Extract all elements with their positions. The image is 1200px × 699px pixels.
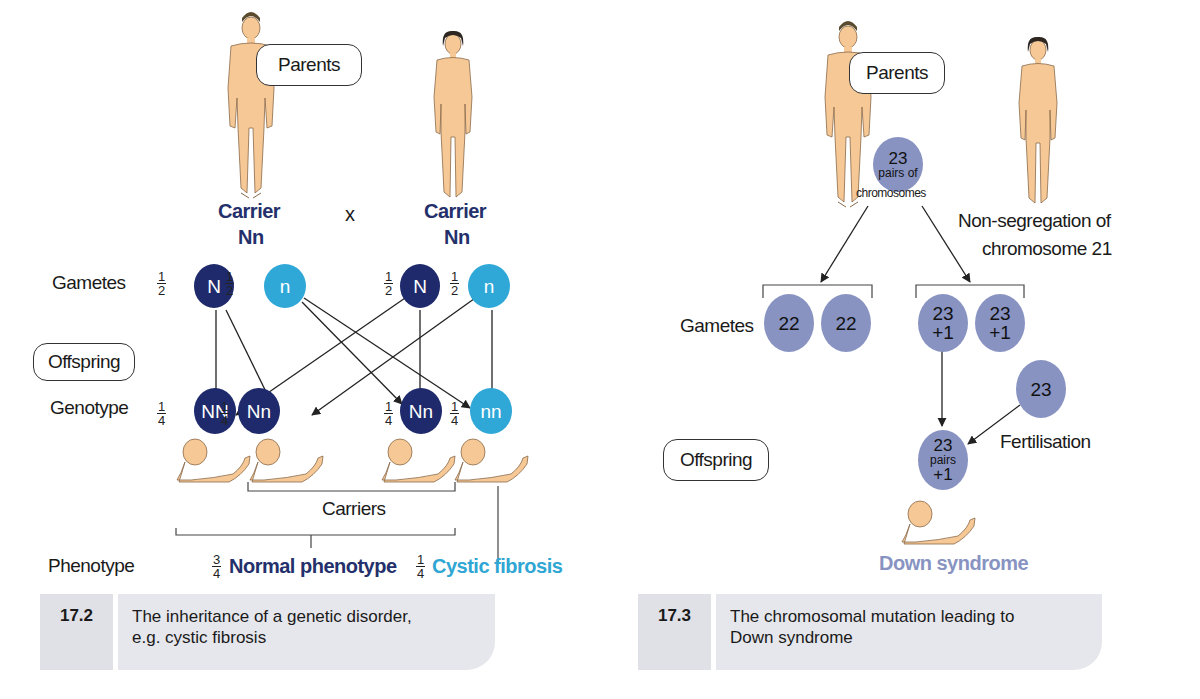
gamete-node-plus-one: 23 +1 (975, 294, 1025, 352)
offspring-text: Offspring (48, 351, 120, 373)
gamete-allele: n (468, 264, 510, 308)
father-status: Carrier (218, 200, 280, 223)
normal-fraction: 34 (212, 553, 221, 580)
gametes-label-right: Gametes (680, 315, 754, 337)
non-segregation-line1: Non-segregation of (958, 210, 1111, 232)
down-syndrome-label: Down syndrome (879, 552, 1028, 575)
gamete-allele: N (400, 264, 440, 308)
affected-fraction: 14 (416, 553, 425, 580)
parents-text: Parents (866, 62, 928, 84)
mother-genotype: Nn (444, 226, 470, 249)
phenotype-label: Phenotype (48, 555, 134, 577)
genotype-node: Nn (400, 388, 442, 434)
parents-label-right: Parents (849, 52, 945, 94)
offspring-label: Offspring (33, 343, 135, 381)
carriers-label: Carriers (322, 498, 386, 520)
cystic-fibrosis-label: Cystic fibrosis (432, 555, 562, 578)
gamete-fraction: 12 (157, 270, 166, 297)
chromosome-unit: pairs of (878, 167, 917, 179)
offspring-text: Offspring (680, 449, 752, 471)
caption-text: The inheritance of a genetic disorder, e… (118, 594, 412, 670)
figure-caption-17-2: 17.2 The inheritance of a genetic disord… (40, 594, 495, 670)
down-syndrome-baby (902, 501, 975, 544)
gametes-label: Gametes (52, 272, 126, 294)
gamete-fraction: 12 (225, 270, 234, 297)
phenotype-brackets (176, 482, 498, 564)
gamete-count: 23 (932, 304, 953, 323)
gamete-extra: +1 (989, 323, 1011, 342)
mother-status: Carrier (424, 200, 486, 223)
gamete-count: 23 (989, 304, 1010, 323)
zygote-node: 23 pairs +1 (918, 430, 968, 490)
offspring-babies (177, 439, 528, 482)
genotype-fraction: 14 (450, 400, 459, 427)
parents-label: Parents (256, 44, 362, 86)
caption-line: The chromosomal mutation leading to (730, 606, 1014, 627)
gamete-node-plus-one: 23 +1 (918, 294, 968, 352)
offspring-label-right: Offspring (663, 439, 769, 481)
gamete-fraction: 12 (450, 270, 459, 297)
zygote-count: 23 (934, 437, 953, 454)
genotype-fraction: 14 (157, 400, 166, 427)
genotype-fraction: 14 (384, 400, 393, 427)
caption-line: e.g. cystic fibrosis (132, 627, 412, 648)
genotype-label: Genotype (50, 397, 128, 419)
father-figure (228, 12, 274, 198)
father-figure-right (825, 21, 871, 207)
chromosome-count: 23 (889, 150, 908, 167)
non-segregation-line2: chromosome 21 (982, 238, 1112, 260)
gamete-node: 22 (821, 294, 871, 352)
cross-symbol: x (345, 203, 355, 226)
mother-figure (434, 31, 472, 197)
caption-number: 17.3 (638, 594, 716, 670)
gamete-allele: n (264, 264, 306, 308)
caption-line: Down syndrome (730, 627, 1014, 648)
mother-figure-right (1019, 37, 1057, 203)
genotype-node: Nn (238, 388, 280, 434)
genotype-fraction: 14 (220, 400, 229, 427)
chromosomes-text: chromosomes (856, 186, 926, 200)
figure-caption-17-3: 17.3 The chromosomal mutation leading to… (638, 594, 1102, 670)
caption-number: 17.2 (40, 594, 118, 670)
gamete-extra: +1 (932, 323, 954, 342)
normal-phenotype-label: Normal phenotype (229, 555, 397, 578)
gamete-node: 22 (764, 294, 814, 352)
father-genotype: Nn (238, 226, 264, 249)
parents-text: Parents (278, 54, 340, 76)
parent-cell-node: 23 pairs of (873, 137, 923, 192)
caption-text: The chromosomal mutation leading to Down… (716, 594, 1014, 670)
normal-gamete-node: 23 (1016, 360, 1066, 418)
fertilisation-label: Fertilisation (1000, 431, 1091, 453)
genotype-node: NN (194, 388, 236, 434)
zygote-extra: +1 (933, 466, 952, 483)
gamete-fraction: 12 (384, 270, 393, 297)
caption-line: The inheritance of a genetic disorder, (132, 606, 412, 627)
genotype-node: nn (470, 388, 512, 434)
gamete-brackets (763, 285, 1024, 298)
